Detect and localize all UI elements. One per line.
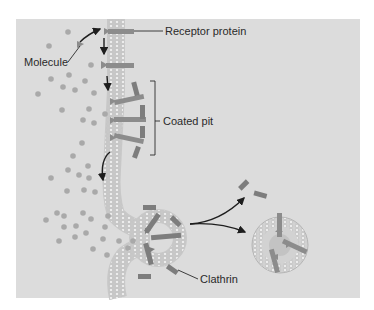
down-arrow-2 — [107, 76, 108, 90]
diagram-canvas — [0, 0, 374, 310]
endocytosis-diagram: Receptor protein Molecule Coated pit Cla… — [0, 0, 374, 310]
label-receptor-protein: Receptor protein — [165, 25, 246, 37]
label-clathrin: Clathrin — [200, 273, 238, 285]
label-coated-pit: Coated pit — [163, 115, 213, 127]
label-molecule: Molecule — [24, 56, 68, 68]
